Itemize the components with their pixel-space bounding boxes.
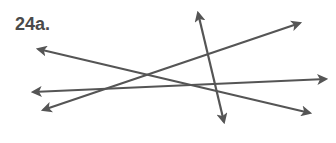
line-b <box>33 79 326 92</box>
line-d <box>198 13 224 122</box>
lines-diagram <box>0 0 336 143</box>
line-c <box>43 23 300 110</box>
lines-group <box>33 13 326 122</box>
